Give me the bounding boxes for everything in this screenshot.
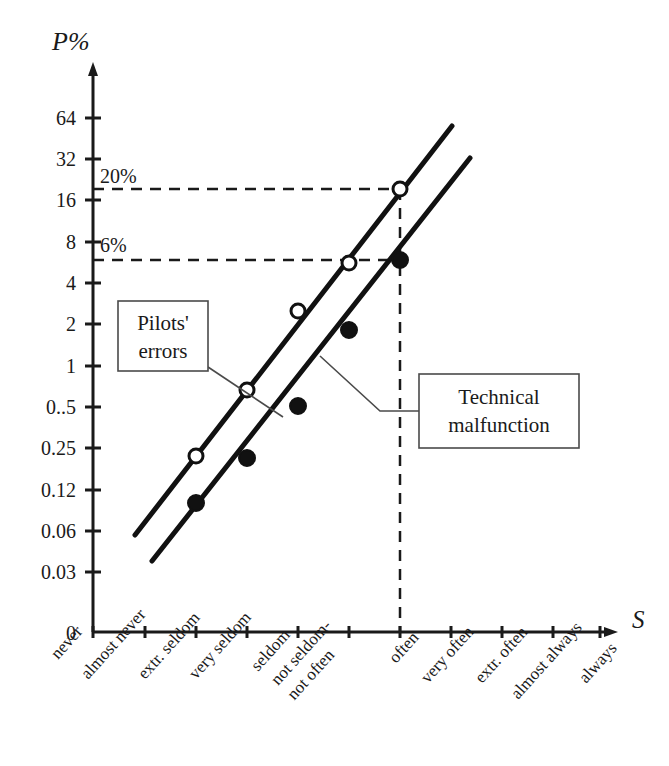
guide-label-20pct: 20% xyxy=(100,165,137,187)
data-point-filled xyxy=(341,322,357,338)
data-point-open xyxy=(393,182,407,196)
data-point-open xyxy=(342,256,356,270)
y-axis-title: P% xyxy=(51,27,90,56)
x-tick-label: never xyxy=(47,622,87,663)
y-axis-arrow xyxy=(88,62,98,76)
data-point-filled xyxy=(392,252,408,268)
data-point-filled xyxy=(290,398,306,414)
y-tick-label: 4 xyxy=(66,272,76,294)
callout-technical-malfunction: Technical malfunction xyxy=(320,356,579,448)
y-tick-label: 0.25 xyxy=(41,437,76,459)
data-point-open xyxy=(291,304,305,318)
x-axis-title: S xyxy=(632,606,645,633)
y-tick-labels: 64 32 16 8 4 2 1 0..5 0.25 0.12 0.06 0.0… xyxy=(41,107,76,644)
y-tick-label: 1 xyxy=(66,355,76,377)
y-tick-label: 0.06 xyxy=(41,520,76,542)
y-tick-label: 2 xyxy=(66,313,76,335)
y-tick-label: 16 xyxy=(56,189,76,211)
x-tick-labels: never almost never extr. seldom very sel… xyxy=(47,605,621,704)
callout-line1: Technical xyxy=(458,385,539,409)
data-point-filled xyxy=(239,450,255,466)
callout-line2: malfunction xyxy=(448,413,550,437)
y-tick-label: 0.03 xyxy=(41,561,76,583)
callout-leader-pilots-errors xyxy=(208,367,283,417)
chart-container: P% S 64 32 16 8 4 2 xyxy=(0,0,669,766)
y-tick-label: 64 xyxy=(56,107,76,129)
callout-line1: Pilots' xyxy=(137,311,189,335)
callout-line2: errors xyxy=(139,339,188,363)
y-tick-label: 8 xyxy=(66,231,76,253)
data-point-open xyxy=(189,449,203,463)
x-tick-label: always xyxy=(575,639,621,687)
y-tick-label: 0.12 xyxy=(41,479,76,501)
callout-leader-technical-malfunction xyxy=(320,356,419,411)
y-tick-label: 0..5 xyxy=(46,396,76,418)
callout-pilots-errors: Pilots' errors xyxy=(118,301,283,417)
chart-svg: P% S 64 32 16 8 4 2 xyxy=(0,0,669,766)
guide-label-6pct: 6% xyxy=(100,234,127,256)
x-axis-arrow xyxy=(604,627,618,637)
data-point-filled xyxy=(188,495,204,511)
y-tick-label: 32 xyxy=(56,148,76,170)
